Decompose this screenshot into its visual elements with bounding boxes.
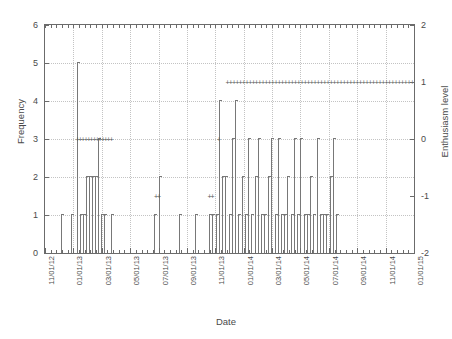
y-tick-right bbox=[410, 82, 414, 83]
x-minor-tick-bottom bbox=[357, 250, 358, 253]
y-tick-label-right: -1 bbox=[421, 191, 429, 201]
plus-marker bbox=[210, 194, 215, 199]
x-minor-tick-bottom bbox=[244, 250, 245, 253]
x-minor-tick-top bbox=[397, 25, 398, 28]
y-tick-label-left: 0 bbox=[33, 248, 38, 258]
x-minor-tick-top bbox=[204, 25, 205, 28]
bar bbox=[291, 215, 292, 253]
y-tick-left bbox=[45, 63, 49, 64]
bar bbox=[232, 139, 233, 253]
x-minor-tick-top bbox=[119, 25, 120, 28]
x-minor-tick-top bbox=[352, 25, 353, 28]
x-minor-tick-bottom bbox=[374, 250, 375, 253]
x-minor-tick-top bbox=[295, 25, 296, 28]
bar bbox=[307, 215, 308, 253]
y-tick-right bbox=[410, 253, 414, 254]
y-tick-label-left: 3 bbox=[33, 134, 38, 144]
plot-inner bbox=[45, 25, 414, 253]
x-minor-tick-top bbox=[215, 25, 216, 28]
x-minor-tick-top bbox=[374, 25, 375, 28]
x-minor-tick-bottom bbox=[295, 250, 296, 253]
bar bbox=[242, 177, 243, 253]
x-minor-tick-bottom bbox=[289, 250, 290, 253]
x-minor-tick-top bbox=[278, 25, 279, 28]
x-minor-tick-top bbox=[198, 25, 199, 28]
y-tick-left bbox=[45, 215, 49, 216]
x-minor-tick-bottom bbox=[414, 250, 415, 253]
x-tick-label: 11/01/14 bbox=[388, 256, 397, 285]
x-minor-tick-top bbox=[170, 25, 171, 28]
x-minor-tick-top bbox=[340, 25, 341, 28]
bar-cap bbox=[251, 214, 254, 215]
x-minor-tick-top bbox=[51, 25, 52, 28]
x-minor-tick-top bbox=[380, 25, 381, 28]
x-minor-tick-top bbox=[187, 25, 188, 28]
bar bbox=[104, 215, 105, 253]
x-minor-tick-bottom bbox=[210, 250, 211, 253]
bar-cap bbox=[238, 214, 241, 215]
x-tick-label: 07/01/13 bbox=[161, 256, 170, 285]
bar-cap bbox=[104, 214, 107, 215]
x-minor-tick-top bbox=[323, 25, 324, 28]
x-minor-tick-bottom bbox=[45, 250, 46, 253]
x-minor-tick-top bbox=[73, 25, 74, 28]
x-tick-label: 09/01/13 bbox=[189, 256, 198, 285]
x-tick-label: 03/01/14 bbox=[274, 256, 283, 285]
bar-cap bbox=[291, 214, 294, 215]
bar-cap bbox=[255, 176, 258, 177]
x-minor-tick-bottom bbox=[130, 250, 131, 253]
x-minor-tick-top bbox=[62, 25, 63, 28]
bar-cap bbox=[159, 176, 162, 177]
bar-cap bbox=[268, 176, 271, 177]
x-minor-tick-bottom bbox=[329, 250, 330, 253]
y-tick-label-right: 0 bbox=[421, 134, 426, 144]
gridline-vertical bbox=[386, 25, 387, 253]
bar bbox=[71, 215, 72, 253]
x-minor-tick-bottom bbox=[62, 250, 63, 253]
bar bbox=[159, 177, 160, 253]
bar-cap bbox=[287, 176, 290, 177]
bar bbox=[77, 63, 78, 253]
bar-cap bbox=[248, 138, 251, 139]
bar bbox=[225, 177, 226, 253]
x-minor-tick-bottom bbox=[79, 250, 80, 253]
bar-cap bbox=[245, 214, 248, 215]
x-minor-tick-bottom bbox=[153, 250, 154, 253]
x-minor-tick-bottom bbox=[283, 250, 284, 253]
bar bbox=[310, 177, 311, 253]
x-minor-tick-bottom bbox=[369, 250, 370, 253]
x-minor-tick-top bbox=[221, 25, 222, 28]
x-minor-tick-bottom bbox=[113, 250, 114, 253]
x-minor-tick-top bbox=[249, 25, 250, 28]
x-tick-label: 09/01/14 bbox=[359, 256, 368, 285]
chart-root: 0123456 Frequency -2-1012 Enthusiasm lev… bbox=[0, 0, 452, 339]
gridline-vertical bbox=[357, 25, 358, 253]
y-tick-label-right: 1 bbox=[421, 77, 426, 87]
bar-cap bbox=[310, 176, 313, 177]
bar bbox=[86, 177, 87, 253]
x-minor-tick-top bbox=[227, 25, 228, 28]
bar bbox=[323, 215, 324, 253]
bar bbox=[268, 177, 269, 253]
x-minor-tick-bottom bbox=[403, 250, 404, 253]
bar bbox=[154, 215, 155, 253]
x-minor-tick-bottom bbox=[124, 250, 125, 253]
bar bbox=[251, 215, 252, 253]
bar bbox=[61, 215, 62, 253]
bar bbox=[297, 215, 298, 253]
bar-cap bbox=[111, 214, 114, 215]
x-minor-tick-bottom bbox=[278, 250, 279, 253]
bar bbox=[245, 215, 246, 253]
x-minor-tick-bottom bbox=[198, 250, 199, 253]
x-minor-tick-top bbox=[266, 25, 267, 28]
bar-cap bbox=[83, 214, 86, 215]
bar bbox=[330, 177, 331, 253]
bar bbox=[264, 215, 265, 253]
x-minor-tick-bottom bbox=[352, 250, 353, 253]
x-minor-tick-top bbox=[312, 25, 313, 28]
gridline-horizontal bbox=[45, 101, 414, 102]
bar bbox=[80, 215, 81, 253]
x-minor-tick-bottom bbox=[107, 250, 108, 253]
bar bbox=[300, 139, 301, 253]
x-minor-tick-top bbox=[159, 25, 160, 28]
